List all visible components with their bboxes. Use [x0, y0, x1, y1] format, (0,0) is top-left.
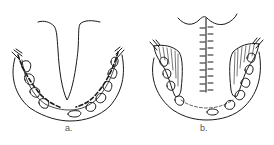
left-flap-hatching [159, 47, 178, 86]
surgical-illustration-figure: a. [0, 0, 274, 145]
tooth [103, 81, 112, 91]
left-cut-end [12, 49, 22, 60]
top-curve [178, 14, 237, 25]
tooth [160, 57, 168, 66]
panel-b-label: b. [200, 123, 208, 133]
tooth [68, 111, 81, 117]
outer-arch [13, 55, 124, 121]
panel-a: a. [0, 0, 137, 145]
tooth [207, 109, 218, 115]
panel-b: b. [137, 0, 274, 145]
panel-a-label: a. [65, 123, 73, 133]
v-flap-outline [38, 21, 100, 100]
tooth [235, 90, 245, 99]
tooth [175, 96, 184, 105]
right-flap [230, 43, 259, 96]
